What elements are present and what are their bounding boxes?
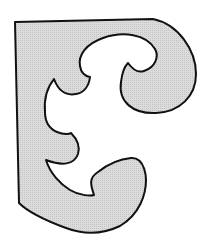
bracket-shape bbox=[15, 19, 196, 233]
bracket-drawing bbox=[0, 0, 208, 248]
